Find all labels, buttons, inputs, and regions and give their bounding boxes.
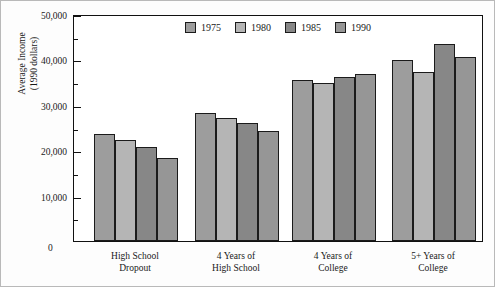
bar-group-0	[94, 16, 178, 241]
bar-1985-2	[334, 77, 355, 241]
y-tick-label-20000: 20,000	[7, 147, 67, 157]
bar-1990-1	[258, 131, 279, 241]
y-axis-title-line1: Average Income	[17, 0, 29, 144]
bar-1990-0	[157, 158, 178, 241]
bar-group-1	[195, 16, 279, 241]
bar-1985-3	[434, 44, 455, 241]
plot-area: 1975198019851990 10,00020,00030,00040,00…	[73, 15, 483, 242]
bar-group-2	[292, 16, 376, 241]
y-tick-label-10000: 10,000	[7, 193, 67, 203]
chart-page: Average Income (1990 dollars) 0 19751980…	[0, 0, 495, 287]
y-tick-40000	[74, 61, 81, 62]
y-tick-20000	[74, 152, 81, 153]
bar-group-3	[392, 16, 476, 241]
y-tick-10000	[74, 198, 81, 199]
bar-1980-3	[413, 72, 434, 241]
y-tick-label-50000: 50,000	[7, 11, 67, 21]
bar-1975-1	[195, 113, 216, 241]
x-axis-label-line: 5+ Years of	[373, 250, 493, 262]
bar-1990-2	[355, 74, 376, 241]
y-tick-label-30000: 30,000	[7, 102, 67, 112]
y-axis-title: Average Income (1990 dollars)	[17, 0, 40, 144]
bar-1980-1	[216, 118, 237, 241]
y-tick-minor-45000	[74, 39, 78, 40]
y-tick-minor-5000	[74, 220, 78, 221]
y-tick-minor-35000	[74, 84, 78, 85]
bar-1985-1	[237, 123, 258, 241]
y-tick-50000	[74, 16, 81, 17]
bar-1990-3	[455, 57, 476, 241]
x-axis-label-3: 5+ Years ofCollege	[373, 250, 493, 274]
bar-1975-0	[94, 134, 115, 241]
bar-1975-2	[292, 80, 313, 241]
bar-1980-2	[313, 83, 334, 241]
bar-1980-0	[115, 140, 136, 241]
y-tick-label-40000: 40,000	[7, 56, 67, 66]
y-tick-minor-15000	[74, 175, 78, 176]
bar-1975-3	[392, 60, 413, 241]
x-axis-label-line: College	[373, 262, 493, 274]
y-tick-label-zero: 0	[48, 243, 53, 253]
y-tick-30000	[74, 107, 81, 108]
bar-1985-0	[136, 147, 157, 241]
y-tick-minor-25000	[74, 130, 78, 131]
y-axis-title-line2: (1990 dollars)	[28, 0, 40, 144]
